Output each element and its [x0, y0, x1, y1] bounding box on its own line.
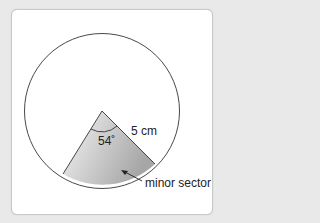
sector-label: minor sector: [145, 176, 211, 190]
angle-label: 54˚: [98, 134, 115, 148]
radius-label: 5 cm: [131, 124, 157, 138]
